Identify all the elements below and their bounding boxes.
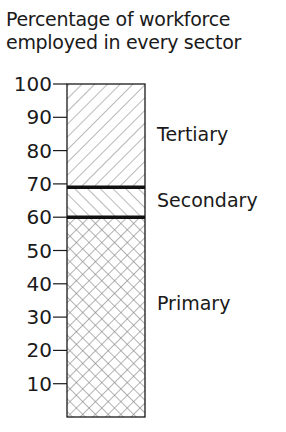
stacked-bar-chart: 102030405060708090100 xyxy=(0,0,286,432)
y-tick-label-70: 70 xyxy=(27,172,52,196)
y-tick-label-20: 20 xyxy=(27,338,52,362)
y-axis: 102030405060708090100 xyxy=(14,72,67,396)
label-primary: Primary xyxy=(157,292,230,314)
bar-segment-secondary xyxy=(67,187,145,217)
label-secondary: Secondary xyxy=(157,189,258,211)
bar-segment-tertiary xyxy=(67,84,145,187)
y-tick-label-40: 40 xyxy=(27,272,52,296)
label-tertiary: Tertiary xyxy=(157,123,228,145)
y-tick-label-30: 30 xyxy=(27,305,52,329)
y-tick-label-50: 50 xyxy=(27,239,52,263)
y-tick-label-90: 90 xyxy=(27,105,52,129)
bar-segments xyxy=(67,84,145,417)
y-tick-label-80: 80 xyxy=(27,139,52,163)
bar-segment-primary xyxy=(67,217,145,417)
y-tick-label-10: 10 xyxy=(27,372,52,396)
y-tick-label-100: 100 xyxy=(14,72,52,96)
y-tick-label-60: 60 xyxy=(27,205,52,229)
